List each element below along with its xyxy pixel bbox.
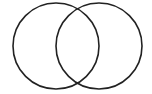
venn-diagram [0, 0, 152, 94]
